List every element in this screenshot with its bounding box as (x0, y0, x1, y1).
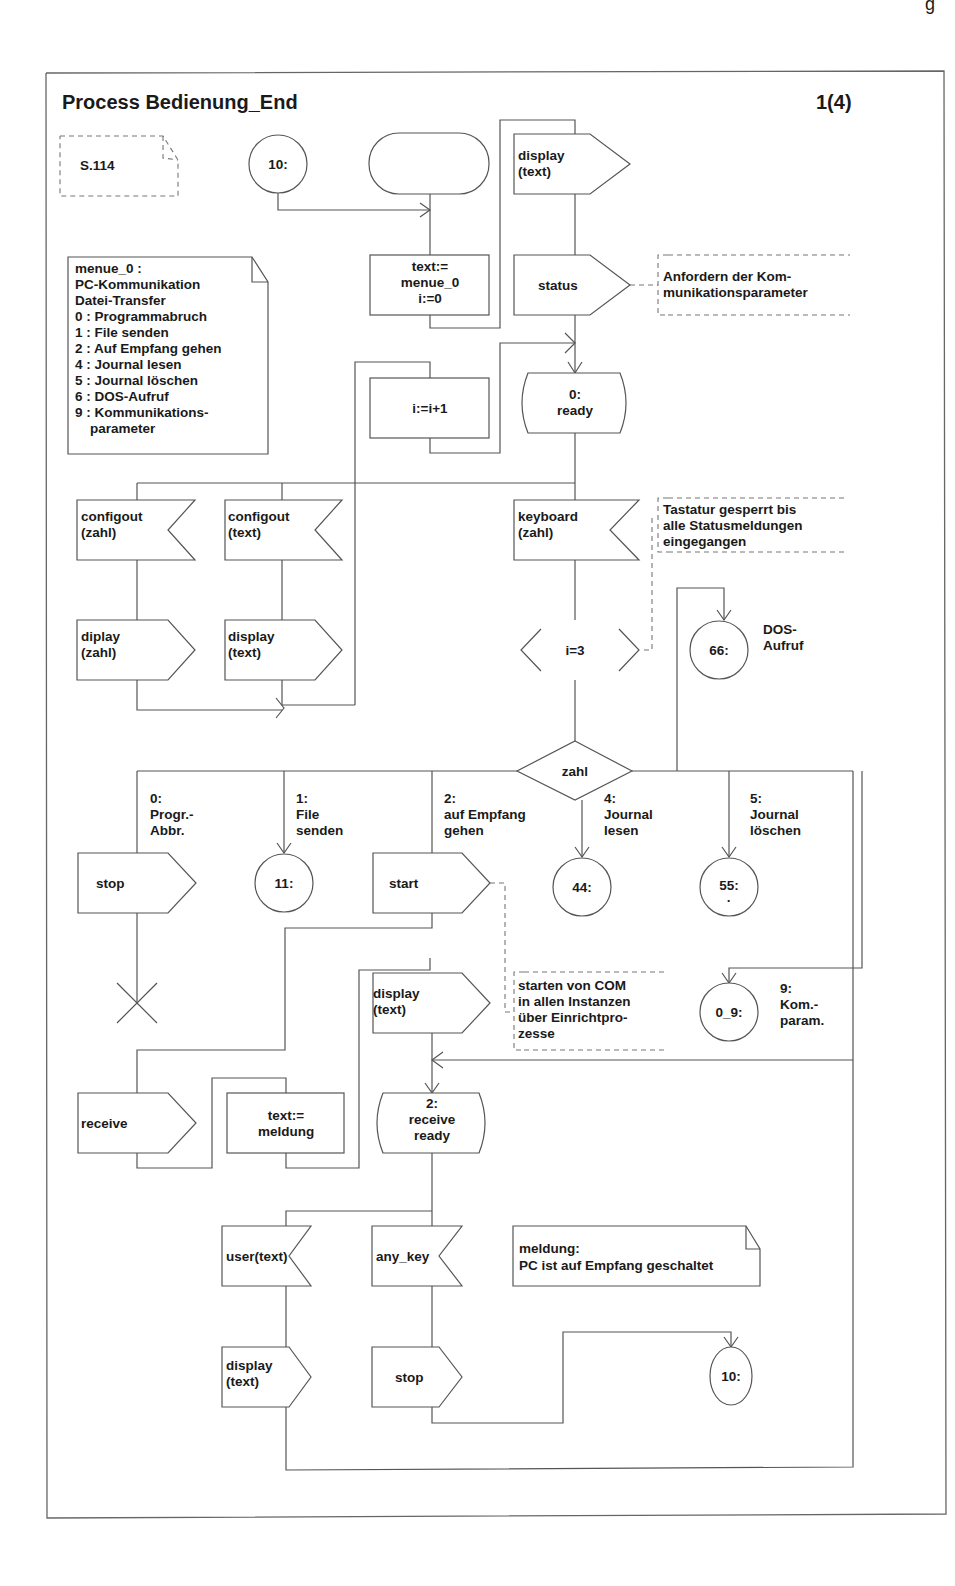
svg-text:diplay: diplay (81, 629, 121, 644)
svg-text:(text): (text) (228, 525, 261, 540)
svg-text:66:: 66: (709, 643, 729, 658)
svg-text:10:: 10: (721, 1369, 741, 1384)
svg-text:meldung: meldung (258, 1124, 314, 1139)
page-number: 1(4) (816, 91, 852, 113)
note-meldung: meldung: PC ist auf Empfang geschaltet (513, 1226, 760, 1286)
svg-text:Progr.-: Progr.- (150, 807, 194, 822)
output-stop-branch-0: stop (78, 853, 196, 913)
svg-text:Anfordern der Kom-: Anfordern der Kom- (663, 269, 791, 284)
output-stop-bottom: stop (372, 1347, 462, 1407)
svg-text:2:: 2: (444, 791, 456, 806)
svg-text:(text): (text) (228, 645, 261, 660)
svg-text:menue_0: menue_0 (401, 275, 460, 290)
svg-text:6 : DOS-Aufruf: 6 : DOS-Aufruf (75, 389, 169, 404)
svg-text:0_9:: 0_9: (715, 1005, 742, 1020)
output-status: status (514, 255, 630, 315)
svg-text:Journal: Journal (604, 807, 653, 822)
connector-10-in: 10: (249, 135, 307, 193)
svg-text:text:=: text:= (412, 259, 449, 274)
svg-text:i:=0: i:=0 (418, 291, 442, 306)
svg-text:55:: 55: (719, 878, 739, 893)
output-display-text-top: display (text) (514, 134, 630, 194)
svg-text:starten von COM: starten von COM (518, 978, 626, 993)
input-configout-text: configout (text) (225, 500, 342, 560)
svg-text:keyboard: keyboard (518, 509, 578, 524)
svg-text:munikationsparameter: munikationsparameter (663, 285, 809, 300)
output-display-text-left: display (text) (225, 620, 342, 680)
task-init: text:= menue_0 i:=0 (370, 255, 489, 315)
svg-text:param.: param. (780, 1013, 824, 1028)
svg-text:4:: 4: (604, 791, 616, 806)
svg-text:stop: stop (96, 876, 125, 891)
svg-text:senden: senden (296, 823, 343, 838)
svg-text:zahl: zahl (562, 764, 588, 779)
svg-text:(text): (text) (226, 1374, 259, 1389)
branch-label-2: 2: auf Empfang gehen (444, 791, 526, 838)
state-receive-ready: 2: receive ready (377, 1093, 485, 1153)
branch-label-1: 1: File senden (296, 791, 343, 838)
output-diplay-zahl: diplay (zahl) (77, 620, 195, 680)
svg-text:meldung:: meldung: (519, 1241, 580, 1256)
svg-text:receive: receive (409, 1112, 456, 1127)
output-display-text-mid: display (text) (373, 973, 490, 1033)
svg-text:Journal: Journal (750, 807, 799, 822)
svg-text:2 : Auf Empfang gehen: 2 : Auf Empfang gehen (75, 341, 222, 356)
state-ready: 0: ready (522, 373, 626, 433)
connector-44-out: 44: (553, 858, 611, 916)
output-display-text-bottom: display (text) (222, 1347, 311, 1407)
svg-text:eingegangen: eingegangen (663, 534, 746, 549)
svg-text:1:: 1: (296, 791, 308, 806)
svg-text:0:: 0: (569, 387, 581, 402)
svg-text:löschen: löschen (750, 823, 801, 838)
svg-text:S.114: S.114 (80, 158, 115, 173)
comment-start: starten von COM in allen Instanzen über … (514, 972, 665, 1050)
svg-text:11:: 11: (275, 876, 294, 891)
svg-text:10:: 10: (268, 157, 288, 172)
connector-10-out: 10: (710, 1347, 752, 1405)
svg-text:(text): (text) (518, 164, 551, 179)
connector-0-9-out: 0_9: (700, 983, 758, 1041)
svg-text:Abbr.: Abbr. (150, 823, 185, 838)
task-increment: i:=i+1 (370, 378, 489, 438)
svg-text:lesen: lesen (604, 823, 639, 838)
svg-text:2:: 2: (426, 1096, 438, 1111)
svg-text:(zahl): (zahl) (81, 525, 116, 540)
svg-text:stop: stop (395, 1370, 424, 1385)
enabling-condition: i=3 (521, 629, 639, 671)
svg-text:PC-Kommunikation: PC-Kommunikation (75, 277, 200, 292)
svg-text:zesse: zesse (518, 1026, 555, 1041)
connector-55-out: 55: · (700, 858, 758, 916)
diagram-title: Process Bedienung_End (62, 91, 298, 113)
branch-label-9: 9: Kom.- param. (780, 981, 824, 1028)
svg-text:auf Empfang: auf Empfang (444, 807, 526, 822)
svg-text:·: · (727, 893, 732, 908)
comment-status: Anfordern der Kom- munikationsparameter (658, 255, 850, 315)
svg-text:(zahl): (zahl) (518, 525, 553, 540)
svg-text:0 : Programmabruch: 0 : Programmabruch (75, 309, 207, 324)
branch-label-6: DOS- (763, 622, 797, 637)
task-meldung: text:= meldung (227, 1093, 344, 1153)
svg-text:5 : Journal löschen: 5 : Journal löschen (75, 373, 198, 388)
input-keyboard-zahl: keyboard (zahl) (514, 500, 639, 560)
svg-text:start: start (389, 876, 419, 891)
svg-text:alle Statusmeldungen: alle Statusmeldungen (663, 518, 803, 533)
branch-label-4: 4: Journal lesen (604, 791, 653, 838)
svg-text:9:: 9: (780, 981, 792, 996)
branch-label-0: 0: Progr.- Abbr. (150, 791, 194, 838)
svg-text:user(text): user(text) (226, 1249, 288, 1264)
svg-text:receive: receive (81, 1116, 128, 1131)
svg-text:configout: configout (228, 509, 290, 524)
svg-text:display: display (518, 148, 565, 163)
svg-text:ready: ready (557, 403, 594, 418)
svg-text:in allen Instanzen: in allen Instanzen (518, 994, 631, 1009)
start-symbol (369, 133, 489, 194)
svg-text:any_key: any_key (376, 1249, 430, 1264)
svg-text:Kom.-: Kom.- (780, 997, 818, 1012)
output-receive: receive (78, 1093, 196, 1153)
svg-text:4 : Journal lesen: 4 : Journal lesen (75, 357, 182, 372)
sdl-process-diagram: g Process Bedienung_End 1(4) S.114 10: t… (0, 0, 955, 1586)
svg-text:Datei-Transfer: Datei-Transfer (75, 293, 167, 308)
branch-label-6b: Aufruf (763, 638, 804, 653)
svg-text:i:=i+1: i:=i+1 (412, 401, 448, 416)
svg-text:5:: 5: (750, 791, 762, 806)
